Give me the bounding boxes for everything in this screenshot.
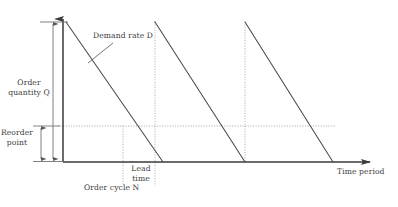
depletion-segment-cycle-1 <box>66 22 163 162</box>
time-period-label: Time period <box>337 167 385 177</box>
reorder-point-label-line2: point <box>7 138 27 147</box>
lead-time-label-line1: Lead <box>131 164 150 173</box>
order-quantity-label: Order quantity Q <box>6 78 52 97</box>
order-cycle-label: Order cycle N <box>84 183 139 193</box>
order-quantity-label-line2: quantity Q <box>8 88 50 97</box>
reorder-point-label: Reorder point <box>0 128 34 147</box>
inventory-level-series <box>66 22 333 162</box>
reorder-point-label-line1: Reorder <box>1 128 33 137</box>
demand-rate-label: Demand rate D <box>93 31 153 41</box>
lead-time-label-line2: time <box>132 174 150 183</box>
depletion-segment-cycle-2 <box>155 22 245 162</box>
lead-time-label: Lead time <box>126 164 156 183</box>
depletion-segment-cycle-3 <box>245 22 333 162</box>
order-quantity-label-line1: Order <box>17 78 40 87</box>
inventory-sawtooth-figure: Demand rate D Order quantity Q Reorder p… <box>0 0 398 207</box>
demand-rate-leader-line <box>88 43 113 63</box>
